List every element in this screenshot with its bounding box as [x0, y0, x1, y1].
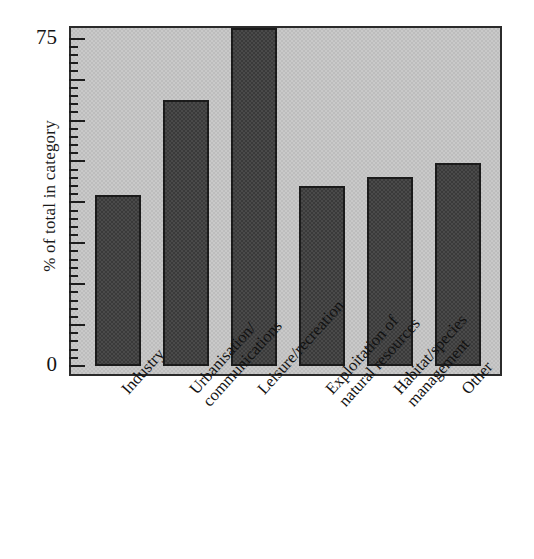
y-tick-label-0: 0 — [0, 354, 57, 375]
y-axis-title: % of total in category — [40, 76, 60, 316]
bar-0[interactable] — [95, 195, 141, 366]
bar-1[interactable] — [163, 100, 209, 366]
y-tick-label-75: 75 — [0, 27, 57, 48]
bars-layer — [71, 28, 500, 366]
bar-chart-figure: % of total in category 75 0 IndustryUrba… — [0, 0, 534, 559]
x-axis-labels: IndustryUrbanisation/communicationsLeisu… — [0, 378, 534, 559]
